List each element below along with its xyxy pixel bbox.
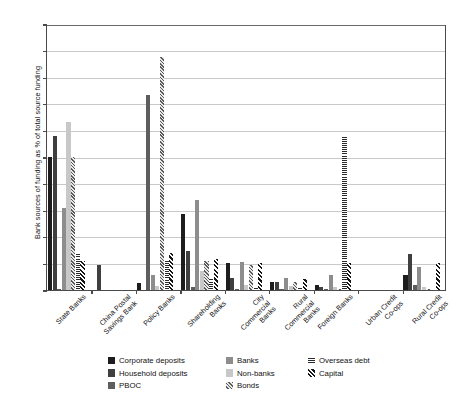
bar-group xyxy=(48,25,85,290)
legend-swatch-icon xyxy=(226,382,233,389)
bar xyxy=(258,263,262,290)
bar xyxy=(97,265,101,290)
bar xyxy=(319,287,323,290)
bar xyxy=(191,287,195,290)
bar xyxy=(76,254,80,290)
bar xyxy=(195,200,199,290)
bar-group xyxy=(403,25,440,290)
y-tick-mark-1 xyxy=(43,264,47,265)
bar xyxy=(303,279,307,290)
legend-item: PBOC xyxy=(108,380,187,391)
bar xyxy=(204,261,208,290)
legend-item: Corporate deposits xyxy=(108,355,187,366)
bar xyxy=(324,289,328,290)
legend-column: BanksNon-banksBonds xyxy=(226,355,275,392)
bar xyxy=(155,286,159,290)
legend-label: Banks xyxy=(237,356,259,365)
bar xyxy=(431,289,435,290)
legend-swatch-icon xyxy=(308,369,315,376)
bar xyxy=(293,282,297,290)
legend-swatch-icon xyxy=(226,357,233,364)
bar xyxy=(66,122,70,290)
y-tick-mark-0 xyxy=(43,290,47,291)
legend-item: Banks xyxy=(226,355,275,366)
bar xyxy=(408,254,412,290)
bar xyxy=(53,136,57,290)
legend-item: Capital xyxy=(308,367,370,378)
bar-group xyxy=(270,25,307,290)
legend-label: Non-banks xyxy=(237,369,275,378)
bar xyxy=(275,282,279,290)
bar-group xyxy=(137,25,174,290)
y-axis-title: Bank sources of funding as % of total so… xyxy=(33,28,42,278)
bar xyxy=(403,275,407,290)
bar xyxy=(226,263,230,290)
bar xyxy=(333,287,337,290)
bar xyxy=(249,265,253,290)
bar xyxy=(146,95,150,291)
bar xyxy=(315,285,319,290)
bar xyxy=(214,259,218,290)
bar xyxy=(200,271,204,290)
legend-swatch-icon xyxy=(108,382,115,389)
bar xyxy=(240,262,244,290)
legend-column: Overseas debtCapital xyxy=(308,355,370,380)
y-tick-mark-9 xyxy=(43,51,47,52)
bar xyxy=(71,157,75,290)
bar xyxy=(254,287,258,290)
bar xyxy=(244,285,248,290)
bar xyxy=(298,287,302,290)
bar xyxy=(80,261,84,290)
bar xyxy=(151,275,155,290)
legend-column: Corporate depositsHousehold depositsPBOC xyxy=(108,355,187,392)
bar-group xyxy=(315,25,352,290)
y-tick-mark-3 xyxy=(43,211,47,212)
y-tick-mark-4 xyxy=(43,184,47,185)
bar xyxy=(427,289,431,290)
bar xyxy=(230,278,234,290)
chart-legend: Corporate depositsHousehold depositsPBOC… xyxy=(108,355,398,395)
bar xyxy=(181,214,185,290)
bar-group xyxy=(359,25,396,290)
legend-swatch-icon xyxy=(308,357,315,364)
bar xyxy=(48,157,52,290)
bar-group xyxy=(92,25,129,290)
y-tick-mark-2 xyxy=(43,237,47,238)
y-tick-mark-7 xyxy=(43,104,47,105)
legend-label: Overseas debt xyxy=(319,356,370,365)
legend-label: Capital xyxy=(319,369,343,378)
bar xyxy=(165,261,169,290)
y-tick-mark-10 xyxy=(43,24,47,25)
legend-swatch-icon xyxy=(226,369,233,376)
bar xyxy=(209,278,213,290)
plot-area: 012345678910 xyxy=(46,25,446,291)
y-tick-mark-8 xyxy=(43,78,47,79)
bar xyxy=(57,289,61,290)
bar xyxy=(422,287,426,290)
legend-swatch-icon xyxy=(108,357,115,364)
legend-label: Household deposits xyxy=(119,369,188,378)
bar xyxy=(342,136,346,290)
bar xyxy=(169,253,173,290)
bar xyxy=(417,267,421,290)
bar xyxy=(279,289,283,290)
bar xyxy=(289,286,293,290)
bar xyxy=(186,251,190,290)
bar-group xyxy=(226,25,263,290)
bar xyxy=(160,57,164,290)
y-tick-mark-5 xyxy=(43,157,47,158)
legend-item: Household deposits xyxy=(108,367,187,378)
bar xyxy=(270,282,274,290)
legend-swatch-icon xyxy=(108,369,115,376)
y-tick-mark-6 xyxy=(43,131,47,132)
legend-label: Bonds xyxy=(237,381,259,390)
legend-label: Corporate deposits xyxy=(119,356,185,365)
legend-item: Non-banks xyxy=(226,367,275,378)
bar xyxy=(284,278,288,290)
bar xyxy=(62,208,66,290)
bar xyxy=(137,283,141,290)
legend-item: Overseas debt xyxy=(308,355,370,366)
bar xyxy=(235,289,239,290)
legend-item: Bonds xyxy=(226,380,275,391)
bank-funding-sources-chart: Bank sources of funding as % of total so… xyxy=(0,0,457,408)
